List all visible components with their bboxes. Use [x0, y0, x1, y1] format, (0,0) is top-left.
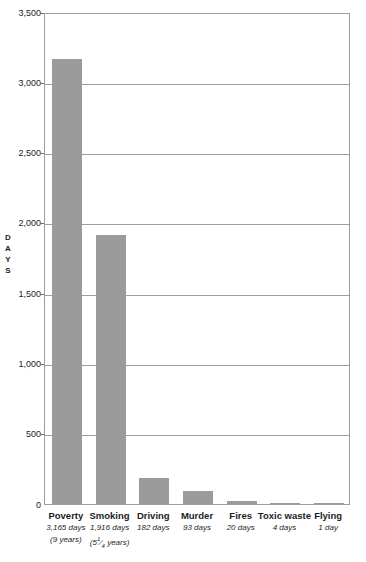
- y-axis-tick-label: 2,500: [3, 149, 41, 158]
- bar-chart: D A Y S 3,5003,0002,5002,0001,5001,00050…: [0, 0, 366, 562]
- x-axis-years-value: (51⁄4 years): [82, 534, 138, 551]
- y-axis-tick-label: 1,000: [3, 360, 41, 369]
- x-axis-category-name: Flying: [300, 509, 356, 522]
- gridline: [45, 154, 349, 155]
- gridline: [45, 365, 349, 366]
- bar-murder: [183, 491, 213, 504]
- bar-flying: [314, 503, 344, 504]
- plot-area: [44, 13, 350, 505]
- x-axis-labels: Poverty3,165 days(9 years)Smoking1,916 d…: [44, 509, 350, 562]
- bar-toxic-waste: [270, 503, 300, 504]
- x-axis-label-group: Flying1 day: [300, 509, 356, 534]
- bar-smoking: [96, 235, 126, 504]
- x-axis-days-value: 1 day: [300, 522, 356, 534]
- gridline: [45, 84, 349, 85]
- y-axis-tick-labels: 3,5003,0002,5002,0001,5001,0005000: [0, 0, 41, 562]
- bar-poverty: [52, 59, 82, 504]
- bar-driving: [139, 478, 169, 504]
- y-axis-tick-label: 0: [3, 501, 41, 510]
- y-axis-tick-label: 3,000: [3, 79, 41, 88]
- y-axis-tick-label: 1,500: [3, 290, 41, 299]
- y-axis-tick-label: 500: [3, 430, 41, 439]
- gridline: [45, 435, 349, 436]
- bar-fires: [227, 501, 257, 504]
- gridline: [45, 295, 349, 296]
- gridline: [45, 224, 349, 225]
- y-axis-tick-label: 2,000: [3, 219, 41, 228]
- y-axis-tick-label: 3,500: [3, 9, 41, 18]
